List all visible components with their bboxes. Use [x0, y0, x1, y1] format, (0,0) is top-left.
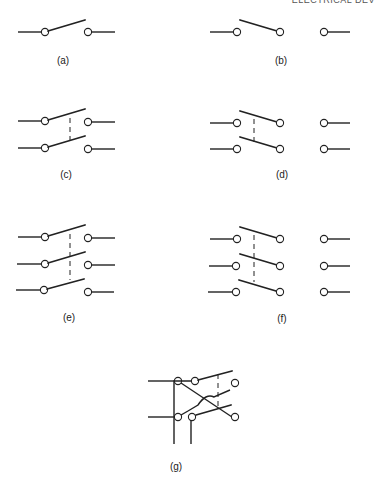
terminal: [188, 413, 195, 420]
terminal: [320, 235, 327, 242]
terminal: [84, 261, 91, 268]
terminal: [191, 377, 198, 384]
terminal: [41, 144, 48, 151]
terminal: [320, 145, 327, 152]
terminal: [320, 119, 327, 126]
terminal: [40, 286, 47, 293]
terminal: [276, 145, 283, 152]
switch-blade: [198, 371, 232, 380]
switch-blade: [240, 111, 277, 122]
terminal: [233, 28, 240, 35]
switch-blade: [48, 136, 85, 147]
terminal: [84, 234, 91, 241]
terminal: [320, 262, 327, 269]
panel-label-c: (c): [60, 169, 72, 180]
terminal: [41, 117, 48, 124]
terminal: [41, 233, 48, 240]
terminal: [233, 145, 240, 152]
switch-blade: [48, 252, 85, 263]
panel-label-a: (a): [57, 55, 69, 66]
panel-e: (e): [16, 225, 115, 323]
wire: [181, 411, 188, 415]
switch-blade: [48, 20, 85, 31]
terminal: [233, 119, 240, 126]
terminal: [276, 288, 283, 295]
terminal: [233, 235, 240, 242]
terminal: [232, 288, 239, 295]
switch-blade: [240, 137, 277, 148]
terminal: [276, 28, 283, 35]
terminal: [231, 379, 238, 386]
panel-f: (f): [208, 227, 350, 324]
panel-label-d: (d): [276, 169, 288, 180]
panel-b: (b): [210, 20, 350, 66]
panel-label-b: (b): [275, 55, 287, 66]
panel-c: (c): [18, 109, 115, 180]
terminal: [232, 262, 239, 269]
switch-blade: [47, 279, 84, 289]
switch-blade: [48, 109, 85, 120]
panel-label-g: (g): [170, 461, 182, 472]
switch-blade: [240, 20, 277, 31]
terminal: [231, 413, 238, 420]
terminal: [320, 28, 327, 35]
switch-blade: [240, 254, 277, 265]
terminal: [41, 28, 48, 35]
terminal: [84, 28, 91, 35]
terminal: [174, 413, 181, 420]
panel-d: (d): [210, 111, 350, 180]
terminal: [276, 235, 283, 242]
terminal: [84, 145, 91, 152]
switch-blade: [240, 227, 277, 238]
panel-a: (a): [18, 20, 115, 66]
terminal: [84, 118, 91, 125]
output-wire: [174, 381, 192, 444]
terminal: [276, 262, 283, 269]
terminal: [276, 119, 283, 126]
terminal: [84, 288, 91, 295]
switch-blade: [48, 225, 85, 236]
terminal: [41, 260, 48, 267]
terminal: [320, 288, 327, 295]
panel-label-e: (e): [63, 312, 75, 323]
panel-g: (g): [148, 371, 239, 472]
switch-blade: [239, 280, 276, 291]
panel-label-f: (f): [277, 313, 286, 324]
